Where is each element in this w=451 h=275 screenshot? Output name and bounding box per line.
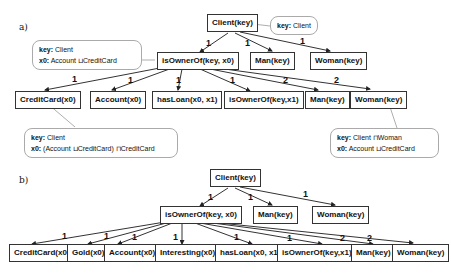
x0-value: Account ⊔CreditCard: [349, 145, 415, 152]
key-value: Client: [47, 134, 65, 141]
edge-label: 2: [283, 75, 288, 85]
edge-label: 1: [303, 189, 308, 199]
callout-creditcard: key: Client x0: (Account ⊔CreditCard) ⊓C…: [24, 128, 178, 158]
node-account: Account(x0): [90, 91, 146, 109]
edge-label: 1: [206, 38, 211, 48]
edge-label: 1: [173, 232, 178, 242]
node-man: Man(key): [250, 52, 295, 70]
edge-label: 1: [62, 231, 67, 241]
node-woman-2: Woman(key): [350, 91, 407, 109]
node-man-2: Man(key): [305, 91, 350, 109]
edge-label: 1: [234, 232, 239, 242]
key-value: Client ⊓Woman: [353, 134, 402, 141]
panel-a-label: a): [19, 22, 28, 32]
node-interesting-b: Interesting(x0): [155, 244, 220, 262]
callout-key-value: Client: [293, 22, 311, 29]
key-value: Client: [55, 46, 73, 53]
edge-label: 1: [208, 192, 213, 202]
node-isownerof-x1: isOwnerOf(key,x1): [224, 91, 304, 109]
panel-b-label: b): [19, 175, 28, 185]
callout-root: key: Client: [270, 16, 318, 35]
edge-label: 1: [300, 36, 305, 46]
key-label: key:: [39, 46, 53, 53]
edge-label: 1: [104, 231, 109, 241]
node-isownerof: isOwnerOf(key, x0): [157, 52, 239, 70]
callout-key-label: key:: [277, 22, 291, 29]
node-hasloan: hasLoan(x0, x1): [152, 91, 222, 109]
edge-label: 2: [367, 233, 372, 243]
callout-woman: key: Client ⊓Woman x0: Account ⊔CreditCa…: [330, 128, 439, 158]
x0-label: x0:: [31, 145, 41, 152]
edge-label: 1: [248, 192, 253, 202]
edge-label: 1: [287, 233, 292, 243]
x0-value: (Account ⊔CreditCard) ⊓CreditCard: [43, 145, 155, 152]
key-label: key:: [31, 134, 45, 141]
key-label: key:: [337, 134, 351, 141]
node-creditcard-b: CreditCard(x0): [9, 244, 75, 262]
edge-label: 2: [340, 233, 345, 243]
edge-label: 1: [132, 232, 137, 242]
node-woman: Woman(key): [310, 52, 367, 70]
node-account-b: Account(x0): [104, 244, 160, 262]
node-isownerof-b: isOwnerOf(key, x0): [160, 206, 242, 224]
edge-label: 1: [245, 38, 250, 48]
node-woman-b: Woman(key): [312, 206, 369, 224]
edge-label: 1: [72, 74, 77, 84]
edge-label: 1: [128, 75, 133, 85]
edge-label: 1: [230, 75, 235, 85]
node-man-b2: Man(key): [351, 244, 396, 262]
node-man-b: Man(key): [253, 206, 298, 224]
x0-label: x0:: [337, 145, 347, 152]
node-client: Client(key): [207, 14, 258, 32]
node-hasloan-b: hasLoan(x0, x1): [215, 244, 285, 262]
x0-value: Account ⊔CreditCard: [51, 57, 117, 64]
node-isownerof-x1-b: isOwnerOf(key,x1): [277, 244, 357, 262]
node-woman-b2: Woman(key): [392, 244, 449, 262]
node-creditcard: CreditCard(x0): [15, 91, 81, 109]
edge-label: 2: [334, 75, 339, 85]
x0-label: x0:: [39, 57, 49, 64]
node-client-b: Client(key): [210, 169, 261, 187]
callout-isownerof: key: Client x0: Account ⊔CreditCard: [32, 40, 142, 70]
edge-label: 1: [176, 75, 181, 85]
